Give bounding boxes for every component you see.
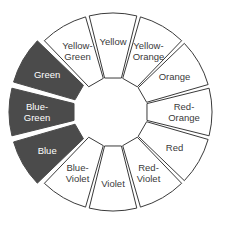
segment-label: Blue-Violet bbox=[66, 162, 90, 184]
segment-label: Yellow-Orange bbox=[133, 40, 165, 62]
segment-label: Red bbox=[166, 142, 183, 153]
segment-label: Yellow-Green bbox=[62, 40, 92, 62]
segment-label: Violet bbox=[101, 178, 125, 189]
segment-label: Red-Violet bbox=[137, 162, 161, 184]
color-wheel: YellowYellow-OrangeOrangeRed-OrangeRedRe… bbox=[0, 0, 226, 226]
segment-label: Yellow bbox=[99, 36, 126, 47]
segment-label: Green bbox=[34, 69, 60, 80]
segment-label: Blue-Green bbox=[24, 101, 50, 123]
segment-label: Blue bbox=[38, 145, 57, 156]
segment-label: Orange bbox=[159, 71, 191, 82]
